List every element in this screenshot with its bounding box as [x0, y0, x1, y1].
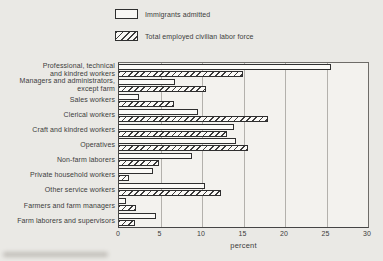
bar-rows — [119, 63, 368, 227]
x-tick-label-0: 0 — [116, 230, 120, 237]
bar-immigrants-10 — [119, 213, 156, 219]
bar-labor-force-10 — [119, 220, 135, 226]
legend-label-immigrants: Immigrants admitted — [145, 11, 210, 18]
x-tick-label-30: 30 — [363, 230, 371, 237]
x-tick-label-10: 10 — [197, 230, 205, 237]
bar-labor-force-6 — [119, 160, 159, 166]
bar-labor-force-1 — [119, 86, 206, 92]
bar-row-9 — [119, 197, 368, 212]
bar-row-1 — [119, 78, 368, 93]
bar-labor-force-3 — [119, 116, 268, 122]
bar-labor-force-7 — [119, 175, 129, 181]
x-axis-title: percent — [118, 241, 369, 250]
category-label-1: Managers and administrators,except farm — [0, 77, 115, 92]
bar-immigrants-8 — [119, 183, 205, 189]
legend-swatch-plain-icon — [115, 9, 138, 19]
category-label-2: Sales workers — [0, 92, 115, 107]
bar-immigrants-9 — [119, 198, 126, 204]
scan-smudge — [3, 252, 108, 257]
legend-label-labor-force: Total employed civilian labor force — [145, 33, 254, 40]
x-tick-label-15: 15 — [239, 230, 247, 237]
bar-row-7 — [119, 167, 368, 182]
bar-immigrants-1 — [119, 79, 175, 85]
category-label-9: Farmers and farm managers — [0, 198, 115, 213]
x-tick-label-20: 20 — [280, 230, 288, 237]
bar-row-2 — [119, 93, 368, 108]
legend-swatch-hatched-icon — [115, 31, 138, 41]
bar-labor-force-4 — [119, 131, 227, 137]
x-tick-label-25: 25 — [322, 230, 330, 237]
legend-item-immigrants: Immigrants admitted — [115, 9, 210, 19]
bar-labor-force-9 — [119, 205, 136, 211]
category-label-0: Professional, technicaland kindred worke… — [0, 62, 115, 77]
bar-row-6 — [119, 152, 368, 167]
bar-immigrants-3 — [119, 109, 198, 115]
bar-immigrants-2 — [119, 94, 139, 100]
bar-labor-force-0 — [119, 71, 243, 77]
x-tick-label-5: 5 — [158, 230, 162, 237]
bar-immigrants-7 — [119, 168, 153, 174]
bar-row-10 — [119, 212, 368, 227]
bar-immigrants-6 — [119, 153, 192, 159]
bar-row-3 — [119, 108, 368, 123]
figure: Immigrants admitted Total employed civil… — [0, 0, 383, 261]
category-label-4: Craft and kindred workers — [0, 123, 115, 138]
category-label-5: Operatives — [0, 138, 115, 153]
bar-immigrants-0 — [119, 64, 331, 70]
bar-row-8 — [119, 182, 368, 197]
category-labels: Professional, technicaland kindred worke… — [0, 62, 115, 228]
category-label-7: Private household workers — [0, 168, 115, 183]
bar-row-4 — [119, 123, 368, 138]
legend-item-labor-force: Total employed civilian labor force — [115, 31, 254, 41]
bar-row-5 — [119, 138, 368, 153]
bar-immigrants-4 — [119, 124, 234, 130]
bar-immigrants-5 — [119, 138, 236, 144]
category-label-10: Farm laborers and supervisors — [0, 213, 115, 228]
category-label-6: Non-farm laborers — [0, 153, 115, 168]
bar-labor-force-2 — [119, 101, 174, 107]
plot-area — [118, 62, 369, 228]
bar-labor-force-5 — [119, 145, 248, 151]
category-label-8: Other service workers — [0, 183, 115, 198]
category-label-3: Clerical workers — [0, 107, 115, 122]
x-axis-labels: 051015202530 — [118, 230, 369, 239]
bar-labor-force-8 — [119, 190, 221, 196]
bar-row-0 — [119, 63, 368, 78]
